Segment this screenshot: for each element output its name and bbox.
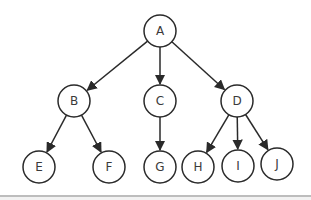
node-label: I	[236, 159, 240, 173]
node-label: F	[106, 160, 113, 174]
edge-b-e	[47, 115, 67, 152]
edge-d-h	[207, 115, 229, 153]
node-f: F	[93, 151, 125, 183]
nodes: ABCDEFGHIJ	[23, 15, 293, 183]
node-a: A	[144, 15, 176, 47]
node-label: D	[232, 94, 241, 108]
node-i: I	[222, 150, 254, 182]
node-label: J	[274, 157, 279, 171]
node-label: G	[155, 160, 164, 174]
tree-diagram: ABCDEFGHIJ	[0, 0, 311, 200]
edge-a-b	[87, 41, 147, 90]
node-label: E	[35, 160, 43, 174]
node-j: J	[261, 148, 293, 180]
edge-b-f	[81, 115, 101, 152]
node-label: C	[156, 94, 164, 108]
node-b: B	[58, 85, 90, 117]
node-label: A	[156, 24, 165, 38]
bottom-band	[0, 197, 311, 200]
node-d: D	[221, 85, 253, 117]
edge-d-j	[246, 115, 268, 150]
edge-a-d	[172, 42, 225, 90]
node-e: E	[23, 151, 55, 183]
node-c: C	[144, 85, 176, 117]
node-label: B	[70, 94, 78, 108]
node-label: H	[193, 160, 202, 174]
node-g: G	[144, 151, 176, 183]
node-h: H	[182, 151, 214, 183]
bottom-divider	[0, 195, 311, 197]
